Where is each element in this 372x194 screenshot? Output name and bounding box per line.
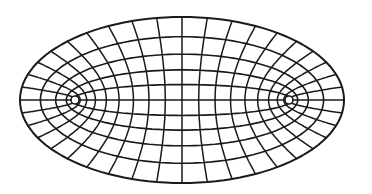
- hyperbola-line: [157, 18, 166, 100]
- hyperbola-line: [215, 21, 232, 100]
- hyperbola-line: [132, 100, 149, 179]
- focus-left-marker: [71, 96, 79, 104]
- hyperbola-line: [199, 100, 208, 182]
- focus-right-marker: [285, 96, 293, 104]
- grid-canvas: [0, 0, 372, 194]
- hyperbola-line: [199, 18, 208, 100]
- hyperbola-line: [132, 21, 149, 100]
- elliptic-coordinates-diagram: [0, 0, 372, 194]
- hyperbola-line: [215, 100, 232, 179]
- hyperbola-line: [157, 100, 166, 182]
